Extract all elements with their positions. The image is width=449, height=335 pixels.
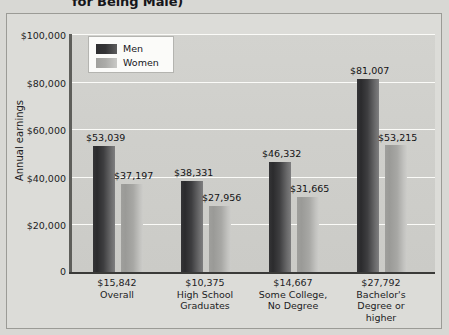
category-name-high-school-line2: Graduates: [161, 300, 249, 312]
bar-men-bachelors[interactable]: [357, 79, 379, 272]
gap-value-bachelors: $27,792: [337, 277, 425, 289]
bar-men-some-college[interactable]: [269, 162, 291, 272]
y-tick-100000: $100,000: [4, 30, 66, 41]
bar-men-overall[interactable]: [93, 146, 115, 272]
category-name-some-college-line1: Some College,: [249, 289, 337, 301]
y-axis-title: Annual earnings: [14, 76, 25, 206]
gap-value-high-school: $10,375: [161, 277, 249, 289]
category-name-bachelors-line2: Degree or: [337, 300, 425, 312]
figure-container: for Being Male) $100,000 $80,000 $60,000…: [0, 0, 449, 335]
gridline-60000: [72, 129, 435, 130]
x-category-overall: $15,842 Overall: [73, 277, 161, 300]
chart-title: for Being Male): [72, 0, 183, 9]
y-axis-labels: $100,000 $80,000 $60,000 $40,000 $20,000…: [0, 0, 66, 335]
x-category-some-college: $14,667 Some College, No Degree: [249, 277, 337, 312]
legend-label-men: Men: [123, 43, 143, 54]
x-category-high-school: $10,375 High School Graduates: [161, 277, 249, 312]
gridline-100000: [72, 34, 435, 35]
y-axis-line: [69, 34, 72, 273]
category-name-high-school-line1: High School: [161, 289, 249, 301]
bar-women-bachelors[interactable]: [385, 145, 407, 272]
legend-label-women: Women: [123, 57, 159, 68]
value-label-men-high-school: $38,331: [174, 167, 213, 178]
x-category-bachelors: $27,792 Bachelor's Degree or higher: [337, 277, 425, 323]
x-axis-line: [69, 272, 435, 274]
legend-swatch-women-icon: [96, 58, 117, 68]
bar-women-overall[interactable]: [121, 184, 143, 273]
title-strip: for Being Male): [0, 0, 449, 14]
value-label-women-bachelors: $53,215: [378, 132, 417, 143]
y-tick-20000: $20,000: [4, 220, 66, 231]
legend-swatch-men-icon: [96, 44, 117, 54]
gridline-80000: [72, 82, 435, 83]
value-label-men-bachelors: $81,007: [350, 65, 389, 76]
value-label-men-overall: $53,039: [86, 132, 125, 143]
legend: Men Women: [88, 36, 174, 73]
category-name-overall: Overall: [73, 289, 161, 301]
category-name-bachelors-line1: Bachelor's: [337, 289, 425, 301]
value-label-women-some-college: $31,665: [290, 183, 329, 194]
category-name-bachelors-line3: higher: [337, 312, 425, 324]
bar-women-some-college[interactable]: [297, 197, 319, 272]
bar-men-high-school[interactable]: [181, 181, 203, 272]
y-tick-0: 0: [4, 266, 66, 277]
value-label-women-high-school: $27,956: [202, 192, 241, 203]
gap-value-overall: $15,842: [73, 277, 161, 289]
gap-value-some-college: $14,667: [249, 277, 337, 289]
bar-women-high-school[interactable]: [209, 206, 231, 273]
value-label-men-some-college: $46,332: [262, 148, 301, 159]
value-label-women-overall: $37,197: [114, 170, 153, 181]
category-name-some-college-line2: No Degree: [249, 300, 337, 312]
